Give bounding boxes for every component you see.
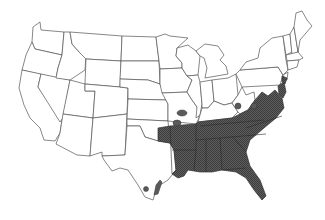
spot-indiana <box>235 103 241 109</box>
spot-ohio <box>251 103 257 109</box>
spot-south-texas <box>144 187 149 192</box>
us-range-map <box>0 0 325 220</box>
state-maine <box>294 11 312 52</box>
state-new-mexico <box>90 114 127 156</box>
spot-missouri <box>177 110 187 116</box>
state-connecticut <box>287 60 299 70</box>
state-wyoming <box>85 59 121 87</box>
state-north-dakota <box>121 36 159 61</box>
state-michigan <box>196 44 228 78</box>
spot-oklahoma-arkansas <box>173 120 181 126</box>
state-kansas <box>127 99 168 121</box>
